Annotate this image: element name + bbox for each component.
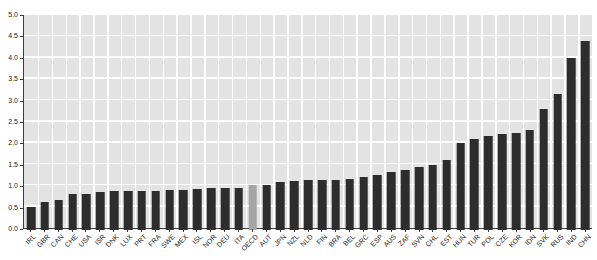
bar-tur	[470, 139, 479, 230]
x-label-chn: CHN	[576, 233, 592, 249]
bar-jpn	[276, 182, 285, 230]
bar-isr	[96, 192, 105, 230]
bar-cze	[498, 134, 507, 230]
x-axis: IRLGBRCANCHEUSAISRDNKLUXPRTFRASWEMEXISLN…	[23, 229, 592, 260]
bar-can	[54, 200, 63, 230]
bar-cell-bel	[343, 15, 357, 228]
x-tick-che	[72, 229, 73, 232]
bar-cell-cze	[495, 15, 509, 228]
bar-cell-mex	[176, 15, 190, 228]
x-label-mex: MEX	[174, 233, 190, 249]
bar-zaf	[401, 170, 410, 230]
x-tick-idn	[530, 229, 531, 232]
bar-bra	[332, 180, 341, 230]
bar-cell-aus	[384, 15, 398, 228]
bar-isl	[193, 189, 202, 230]
bar-gbr	[40, 202, 49, 230]
y-tick-label-5.0: 5.0	[0, 11, 18, 19]
bar-cell-rus	[551, 15, 565, 228]
x-tick-esp	[377, 229, 378, 232]
x-tick-cze	[502, 229, 503, 232]
bar-ind	[567, 58, 576, 230]
bar-che	[68, 194, 77, 230]
bar-bel	[345, 179, 354, 230]
bar-oecd	[248, 185, 257, 230]
x-label-deu: DEU	[216, 233, 232, 249]
bar-cell-svn	[412, 15, 426, 228]
bar-cell-dnk	[107, 15, 121, 228]
x-label-cze: CZE	[494, 233, 510, 249]
y-tick-label-4.0: 4.0	[0, 54, 18, 62]
x-tick-bra	[335, 229, 336, 232]
bar-mex	[179, 190, 188, 230]
bar-cell-kor	[509, 15, 523, 228]
x-tick-isr	[99, 229, 100, 232]
x-label-bra: BRA	[327, 233, 343, 249]
x-tick-kor	[516, 229, 517, 232]
bar-prt	[138, 191, 147, 230]
y-tick-label-2.5: 2.5	[0, 118, 18, 126]
bar-fin	[318, 180, 327, 230]
x-label-fin: FIN	[315, 233, 329, 247]
x-tick-aut	[266, 229, 267, 232]
bar-cell-usa	[79, 15, 93, 228]
bar-cell-esp	[370, 15, 384, 228]
x-label-che: CHE	[63, 233, 79, 249]
bar-cell-hun	[454, 15, 468, 228]
x-tick-bel	[349, 229, 350, 232]
bar-cell-aut	[260, 15, 274, 228]
bar-nzl	[290, 181, 299, 230]
x-tick-isl	[196, 229, 197, 232]
x-label-nzl: NZL	[286, 233, 301, 248]
x-tick-usa	[85, 229, 86, 232]
y-tick-label-1.5: 1.5	[0, 161, 18, 169]
x-tick-prt	[141, 229, 142, 232]
bar-fra	[151, 191, 160, 230]
bar-lux	[124, 191, 133, 230]
bar-cell-nzl	[287, 15, 301, 228]
bar-usa	[82, 194, 91, 230]
x-label-hun: HUN	[451, 233, 467, 249]
bar-ita	[235, 188, 244, 230]
bar-swe	[165, 190, 174, 230]
x-tick-nzl	[294, 229, 295, 232]
x-label-grc: GRC	[354, 233, 371, 250]
x-label-ind: IND	[565, 233, 579, 247]
y-tick-label-3.5: 3.5	[0, 75, 18, 83]
bar-nld	[304, 180, 313, 230]
x-tick-gbr	[44, 229, 45, 232]
x-label-zaf: ZAF	[397, 233, 412, 248]
x-tick-oecd	[252, 229, 253, 232]
bar-chn	[581, 41, 590, 230]
x-tick-chl	[432, 229, 433, 232]
bar-aus	[387, 172, 396, 230]
bar-cell-oecd	[246, 15, 260, 228]
bar-esp	[373, 175, 382, 230]
bar-cell-che	[66, 15, 80, 228]
y-tick-label-4.5: 4.5	[0, 32, 18, 40]
x-tick-svn	[419, 229, 420, 232]
bar-cell-isr	[93, 15, 107, 228]
x-tick-aus	[391, 229, 392, 232]
bar-cell-jpn	[273, 15, 287, 228]
bar-cell-deu	[218, 15, 232, 228]
x-tick-hun	[460, 229, 461, 232]
x-label-esp: ESP	[369, 233, 385, 249]
bar-cell-fin	[315, 15, 329, 228]
plot-area	[23, 15, 592, 229]
bar-svn	[415, 167, 424, 230]
bar-cell-prt	[135, 15, 149, 228]
bar-deu	[221, 188, 230, 230]
x-tick-rus	[557, 229, 558, 232]
x-tick-ita	[238, 229, 239, 232]
bar-svk	[539, 109, 548, 230]
x-label-est: EST	[439, 233, 454, 248]
bar-cell-pol	[481, 15, 495, 228]
bar-cell-chl	[426, 15, 440, 228]
x-label-rus: RUS	[549, 233, 565, 249]
x-tick-est	[446, 229, 447, 232]
x-tick-grc	[363, 229, 364, 232]
x-tick-pol	[488, 229, 489, 232]
x-label-gbr: GBR	[35, 233, 51, 249]
x-label-prt: PRT	[133, 233, 148, 248]
